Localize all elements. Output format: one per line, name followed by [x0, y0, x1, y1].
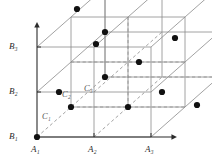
z-tick-label-c3: C₃ — [84, 84, 93, 93]
x-tick-label-a2: A₂ — [88, 145, 97, 154]
x-tick-label-a3: A₃ — [145, 145, 154, 154]
lattice-point — [74, 6, 80, 12]
lattice-point — [159, 89, 165, 95]
back-plane-c3-grid — [105, 0, 212, 77]
lattice-point — [172, 35, 178, 41]
lattice-point — [136, 59, 142, 65]
z-tick-label-c1: C₁ — [42, 112, 51, 121]
lattice-cube-svg — [0, 0, 212, 165]
depth-edges-solid — [37, 0, 212, 137]
lattice-cube-figure: B₃ B₂ B₁ A₁ A₂ A₃ C₁ C₂ C₃ — [0, 0, 212, 165]
axis-lines — [37, 27, 172, 137]
lattice-point — [102, 74, 108, 80]
lattice-point — [102, 29, 108, 35]
lattice-point — [68, 104, 74, 110]
y-tick-label-b1: B₁ — [9, 132, 18, 141]
y-tick-label-b3: B₃ — [9, 42, 18, 51]
lattice-point — [34, 134, 40, 140]
lattice-point — [93, 41, 99, 47]
lattice-point — [125, 104, 131, 110]
x-tick-label-a1: A₁ — [31, 145, 40, 154]
z-tick-label-c2: C₂ — [62, 90, 71, 99]
lattice-point — [194, 102, 200, 108]
y-tick-label-b2: B₂ — [9, 87, 18, 96]
